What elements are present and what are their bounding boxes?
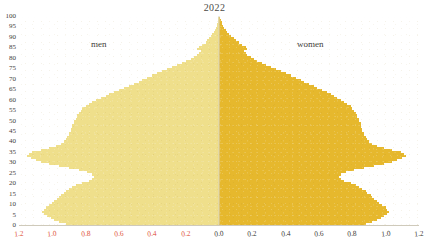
- pyramid-row-women: [219, 120, 419, 122]
- bar-women: [219, 159, 397, 161]
- bar-women: [219, 215, 384, 217]
- pyramid-row-women: [219, 211, 419, 213]
- bar-women: [219, 64, 266, 66]
- pyramid-row-women: [219, 165, 419, 167]
- bar-men: [81, 110, 219, 112]
- pyramid-row-men: [19, 114, 219, 116]
- y-axis-tick-label: 70: [9, 75, 16, 82]
- pyramid-row-women: [219, 17, 419, 19]
- pyramid-row-women: [219, 89, 419, 91]
- bar-men: [87, 171, 219, 173]
- bar-men: [199, 52, 219, 54]
- y-axis-tick-label: 35: [9, 148, 16, 155]
- pyramid-row-men: [19, 89, 219, 91]
- x-axis-tick-label: 0.6: [314, 230, 324, 239]
- pyramid-row-men: [19, 44, 219, 46]
- bar-men: [46, 206, 219, 208]
- y-axis-tick-label: 90: [9, 33, 16, 40]
- bar-women: [219, 202, 379, 204]
- x-axis: 1.21.00.80.60.40.20.00.20.40.60.81.01.2: [19, 225, 419, 244]
- bar-women: [219, 68, 276, 70]
- bar-men: [139, 81, 219, 83]
- pyramid-row-men: [19, 159, 219, 161]
- bar-men: [74, 122, 219, 124]
- pyramid-row-men: [19, 126, 219, 128]
- bar-men: [106, 95, 219, 97]
- pyramid-row-men: [19, 143, 219, 145]
- pyramid-row-men: [19, 217, 219, 219]
- bar-men: [69, 134, 219, 136]
- pyramid-row-women: [219, 149, 419, 151]
- bar-women: [219, 79, 301, 81]
- pyramid-row-men: [19, 163, 219, 165]
- bar-women: [219, 25, 223, 27]
- pyramid-row-men: [19, 120, 219, 122]
- bar-men: [72, 126, 219, 128]
- bar-men: [67, 136, 219, 138]
- bar-men: [191, 58, 219, 60]
- bar-women: [219, 48, 247, 50]
- pyramid-row-men: [19, 77, 219, 79]
- pyramid-row-men: [19, 41, 219, 43]
- bar-women: [219, 128, 362, 130]
- pyramid-row-men: [19, 68, 219, 70]
- pyramid-row-men: [19, 62, 219, 64]
- bar-men: [49, 147, 219, 149]
- pyramid-row-men: [19, 79, 219, 81]
- pyramid-row-women: [219, 35, 419, 37]
- pyramid-row-men: [19, 122, 219, 124]
- pyramid-row-women: [219, 219, 419, 221]
- bar-women: [219, 196, 372, 198]
- bar-women: [219, 87, 317, 89]
- bar-men: [92, 101, 219, 103]
- pyramid-row-men: [19, 215, 219, 217]
- bar-men: [29, 153, 219, 155]
- bar-women: [219, 122, 361, 124]
- bar-women: [219, 140, 369, 142]
- pyramid-row-women: [219, 58, 419, 60]
- bar-women: [219, 116, 357, 118]
- pyramid-row-men: [19, 112, 219, 114]
- pyramid-row-women: [219, 132, 419, 134]
- population-pyramid-chart: 2022 men women 0510152025303540455055606…: [0, 0, 429, 244]
- pyramid-row-men: [19, 58, 219, 60]
- pyramid-row-women: [219, 81, 419, 83]
- bar-men: [134, 83, 219, 85]
- pyramid-row-men: [19, 116, 219, 118]
- bar-women: [219, 46, 246, 48]
- bar-women: [219, 27, 224, 29]
- pyramid-row-men: [19, 128, 219, 130]
- bar-men: [57, 198, 219, 200]
- pyramid-row-men: [19, 149, 219, 151]
- pyramid-row-women: [219, 101, 419, 103]
- pyramid-row-men: [19, 95, 219, 97]
- bar-men: [109, 93, 219, 95]
- pyramid-row-women: [219, 140, 419, 142]
- bar-men: [32, 151, 219, 153]
- pyramid-row-men: [19, 206, 219, 208]
- pyramid-row-women: [219, 147, 419, 149]
- pyramid-row-men: [19, 23, 219, 25]
- bar-women: [219, 163, 384, 165]
- pyramid-row-men: [19, 209, 219, 211]
- pyramid-row-men: [19, 74, 219, 76]
- pyramid-row-women: [219, 186, 419, 188]
- x-axis-tick-label: 1.2: [414, 230, 424, 239]
- pyramid-row-men: [19, 186, 219, 188]
- bar-men: [69, 167, 219, 169]
- pyramid-row-men: [19, 167, 219, 169]
- x-axis-tick-label: 0.2: [181, 230, 191, 239]
- pyramid-row-men: [19, 19, 219, 21]
- bar-women: [219, 72, 286, 74]
- pyramid-row-men: [19, 21, 219, 23]
- pyramid-row-men: [19, 180, 219, 182]
- pyramid-row-men: [19, 124, 219, 126]
- pyramid-row-men: [19, 182, 219, 184]
- bar-men: [96, 99, 219, 101]
- bar-women: [219, 50, 244, 52]
- pyramid-row-women: [219, 116, 419, 118]
- bar-men: [27, 155, 219, 157]
- bar-women: [219, 188, 362, 190]
- x-axis-tick-label: 0.4: [281, 230, 291, 239]
- bar-women: [219, 91, 327, 93]
